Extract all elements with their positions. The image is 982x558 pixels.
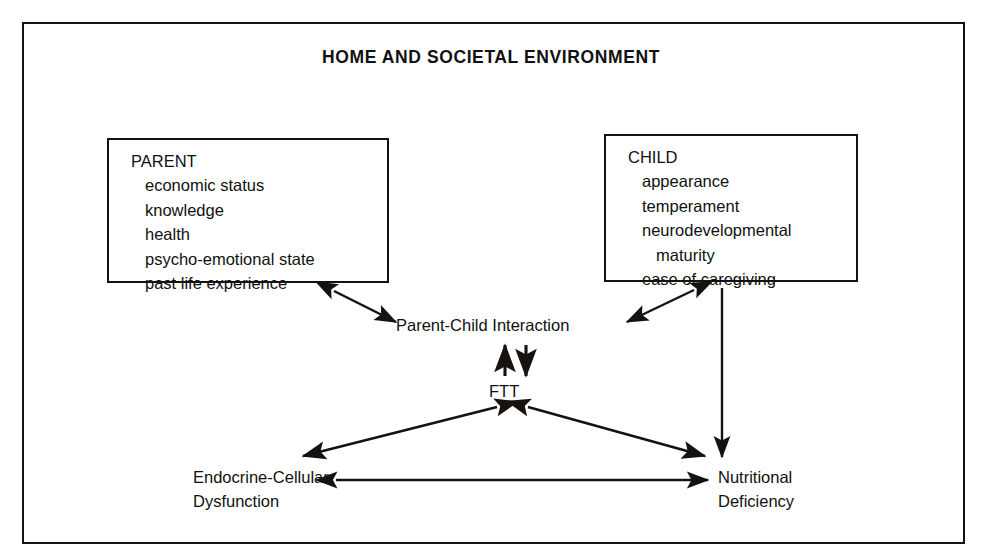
list-item: economic status (145, 173, 381, 198)
node-nutritional-line-1: Nutritional (718, 465, 794, 489)
list-item: past life experience (145, 271, 381, 296)
list-item: neurodevelopmental (642, 218, 850, 243)
parent-box: PARENT economic status knowledge health … (107, 138, 389, 283)
list-item: knowledge (145, 198, 381, 223)
child-box-content: CHILD appearance temperament neurodevelo… (628, 145, 850, 292)
page-title: HOME AND SOCIETAL ENVIRONMENT (0, 47, 982, 68)
list-item: maturity (642, 243, 850, 268)
list-item: psycho-emotional state (145, 247, 381, 272)
node-endocrine-line-2: Dysfunction (193, 489, 329, 513)
node-parent-child-interaction: Parent-Child Interaction (396, 313, 569, 337)
list-item: temperament (642, 194, 850, 219)
diagram-figure: HOME AND SOCIETAL ENVIRONMENT PARENT eco… (0, 0, 982, 558)
parent-box-content: PARENT economic status knowledge health … (131, 149, 381, 296)
node-endocrine-cellular-dysfunction: Endocrine-Cellular Dysfunction (193, 465, 329, 513)
list-item: ease of caregiving (642, 267, 850, 292)
node-endocrine-line-1: Endocrine-Cellular (193, 465, 329, 489)
list-item: appearance (642, 169, 850, 194)
node-nutritional-line-2: Deficiency (718, 489, 794, 513)
node-ftt: FTT (489, 379, 519, 403)
child-box-heading: CHILD (628, 145, 850, 169)
node-nutritional-deficiency: Nutritional Deficiency (718, 465, 794, 513)
child-box: CHILD appearance temperament neurodevelo… (604, 134, 858, 282)
parent-attribute-list: economic status knowledge health psycho-… (131, 173, 381, 296)
parent-box-heading: PARENT (131, 149, 381, 173)
list-item: health (145, 222, 381, 247)
child-attribute-list: appearance temperament neurodevelopmenta… (628, 169, 850, 292)
